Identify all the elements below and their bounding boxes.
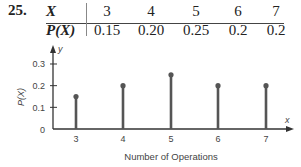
- stem-point: [73, 94, 78, 99]
- y-axis-letter: y: [57, 44, 63, 54]
- y-axis-arrow-icon: [50, 45, 56, 53]
- x-axis-arrow-icon: [286, 126, 294, 132]
- x-tick-label: 6: [215, 134, 220, 144]
- y-tick-label: 0.3: [32, 59, 45, 69]
- x-tick-label: 4: [120, 134, 125, 144]
- x-tick-label: 7: [263, 134, 268, 144]
- x-axis-letter: x: [284, 115, 290, 125]
- stem-point: [263, 83, 268, 88]
- x-tick-label: 5: [168, 134, 173, 144]
- y-tick-label: 0.1: [32, 103, 45, 113]
- y-tick-label: 0.2: [32, 81, 45, 91]
- stem-point: [168, 72, 173, 77]
- y-tick-label: 0: [40, 125, 45, 135]
- x-axis-label: Number of Operations: [124, 151, 218, 162]
- x-tick-label: 3: [73, 134, 78, 144]
- stem-point: [215, 83, 220, 88]
- stem-chart: yx00.10.20.3P(X)34567Number of Operation…: [0, 0, 301, 167]
- stem-point: [120, 83, 125, 88]
- y-axis-label: P(X): [16, 88, 26, 106]
